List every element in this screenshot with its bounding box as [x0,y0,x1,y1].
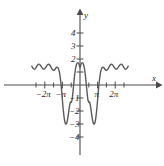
axes-group [4,9,163,156]
y-tick-label-2: 2 [71,55,76,64]
function-plot [0,0,164,166]
y-tick-label-neg-1: −1 [69,94,80,103]
x-axis-label: x [152,74,156,83]
y-tick-label-neg-4: −4 [69,133,80,142]
y-tick-label-neg-3: −3 [69,120,80,129]
y-axis-label: y [84,11,88,20]
x-tick-label-2pi: 2π [109,90,118,99]
x-tick-label-neg-2pi: −2π [36,90,51,99]
y-tick-label-neg-2: −2 [69,107,80,116]
x-axis-arrow [156,82,163,89]
x-tick-label-neg-pi: −π [55,90,66,99]
x-tick-label-pi: π [95,90,100,99]
y-axis-arrow [77,9,84,16]
y-tick-label-4: 4 [71,29,76,38]
graph-figure: −2π −π π 2π 4 3 2 −1 −2 −3 −4 x y [0,0,164,166]
y-tick-label-3: 3 [71,42,76,51]
